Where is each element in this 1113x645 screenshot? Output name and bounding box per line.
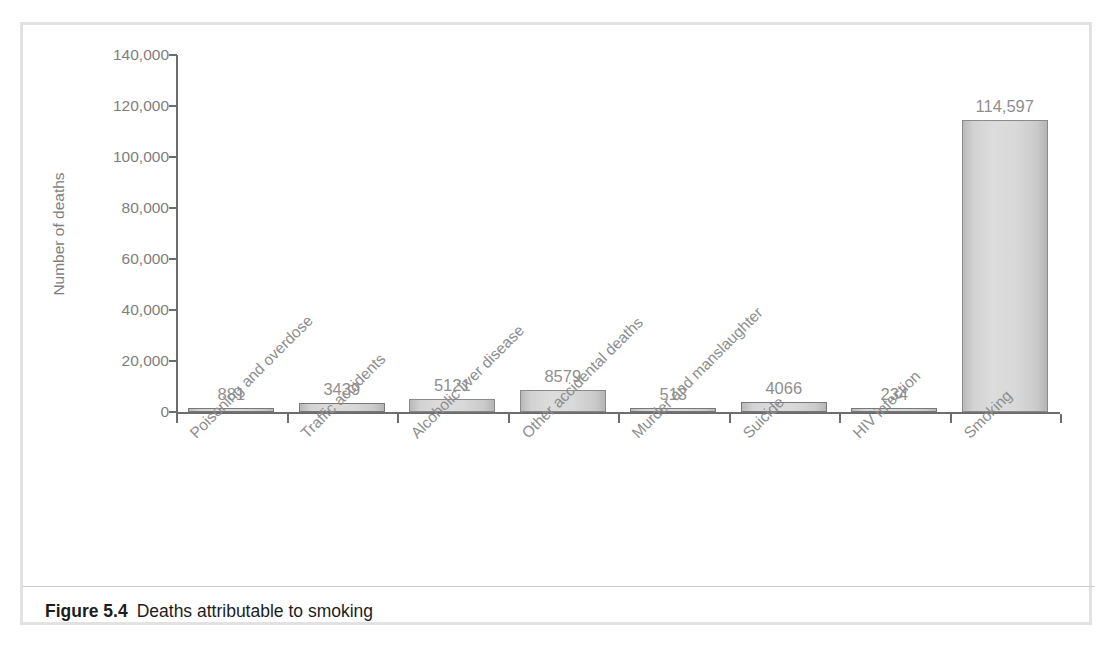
bar[interactable] [962,120,1048,412]
y-axis-tick-label: 120,000 [85,98,169,114]
y-axis-tick-label: 140,000 [85,47,169,63]
chart-plot-area: Number of deaths 020,00040,00060,00080,0… [23,25,1095,545]
figure-caption-text: Deaths attributable to smoking [137,601,373,621]
caption-divider [23,586,1095,587]
y-axis-tick-label: 100,000 [85,149,169,165]
bar-value-label: 114,597 [950,98,1061,115]
x-axis-tick-mark [618,414,620,423]
x-axis-tick-mark [950,414,952,423]
x-axis-tick-mark [839,414,841,423]
x-axis-category-label: Poisoning and overdose [187,312,316,441]
x-axis-category-label: Murder and manslaughter [629,304,765,440]
y-axis-tick-label: 20,000 [85,353,169,369]
bar[interactable] [630,408,716,412]
x-axis-category-label: HIV infection [850,368,923,441]
x-axis-tick-mark [729,414,731,423]
bar[interactable] [851,408,937,412]
y-axis-line [176,55,178,413]
figure-frame: Number of deaths 020,00040,00060,00080,0… [20,22,1092,625]
bar-value-label: 8579 [508,368,619,385]
y-axis-title: Number of deaths [50,154,68,314]
y-axis-tick-label: 0 [85,404,169,420]
figure-caption-number: Figure 5.4 [45,601,128,621]
x-axis-tick-mark [1060,414,1062,423]
x-axis-tick-mark [508,414,510,423]
y-axis-tick-label: 60,000 [85,251,169,267]
x-axis-tick-mark [397,414,399,423]
bar[interactable] [188,408,274,412]
y-axis-tick-label: 80,000 [85,200,169,216]
y-axis-tick-label: 40,000 [85,302,169,318]
figure-caption: Figure 5.4Deaths attributable to smoking [45,601,373,622]
x-axis-tick-mark [287,414,289,423]
x-axis-tick-mark [176,414,178,423]
bar-value-label: 4066 [729,380,840,397]
